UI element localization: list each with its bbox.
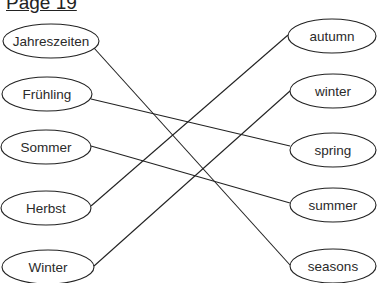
node-label: Winter (28, 260, 68, 275)
english-word-node: spring (290, 133, 376, 167)
node-label: seasons (308, 259, 359, 274)
node-label: winter (314, 84, 352, 99)
german-word-node: Frühling (2, 77, 92, 111)
node-label: Herbst (26, 201, 66, 216)
node-label: spring (315, 143, 352, 158)
right-column-english: autumnwinterspringsummerseasons (288, 19, 376, 283)
german-word-node: Herbst (1, 191, 91, 225)
german-word-node: Sommer (1, 130, 91, 164)
connection-line (94, 48, 290, 265)
left-column-german: JahreszeitenFrühlingSommerHerbstWinter (1, 24, 99, 283)
german-word-node: Winter (2, 250, 94, 283)
node-label: Jahreszeiten (13, 34, 90, 49)
connection-lines (91, 35, 290, 266)
node-label: summer (309, 198, 358, 213)
english-word-node: autumn (288, 19, 376, 53)
english-word-node: winter (290, 74, 376, 108)
english-word-node: seasons (290, 249, 376, 283)
node-label: autumn (309, 29, 354, 44)
node-label: Sommer (20, 140, 72, 155)
english-word-node: summer (290, 188, 376, 222)
matching-diagram: JahreszeitenFrühlingSommerHerbstWinter a… (0, 0, 378, 283)
connection-line (91, 99, 290, 146)
node-label: Frühling (23, 87, 72, 102)
german-word-node: Jahreszeiten (3, 24, 99, 58)
